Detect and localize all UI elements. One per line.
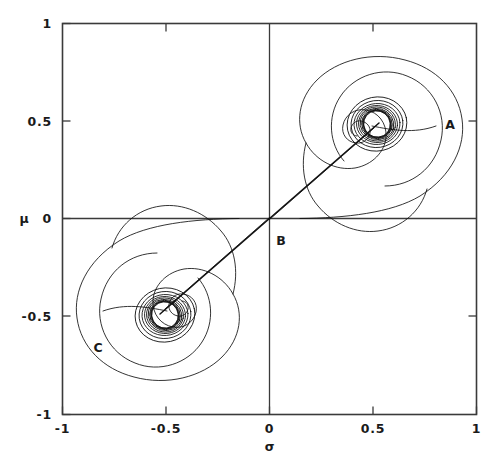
y-tick-label-0p5: 0.5 (27, 114, 52, 129)
y-axis-title: μ (19, 211, 28, 226)
fixed-point-label-b: B (276, 233, 286, 248)
y-tick-label-neg1: -1 (37, 407, 53, 422)
ray-through-a (372, 126, 436, 131)
y-tick-label-0: 0 (43, 211, 53, 226)
y-tick-label-1: 1 (43, 16, 53, 31)
phase-portrait-figure: 1 0.5 0 -0.5 -1 μ -1 -0.5 0 0.5 1 σ A B … (0, 0, 504, 474)
x-tick-label-neg1: -1 (55, 421, 71, 436)
ray-through-c (103, 306, 167, 311)
x-axis-ticks (63, 407, 477, 415)
x-tick-label-0: 0 (265, 421, 275, 436)
x-tick-label-neg0p5: -0.5 (151, 421, 182, 436)
spiral-loops-c (130, 282, 200, 347)
x-tick-label-0p5: 0.5 (361, 421, 386, 436)
phase-portrait-canvas: 1 0.5 0 -0.5 -1 μ -1 -0.5 0 0.5 1 σ A B … (0, 0, 504, 474)
outer-shell-c (100, 253, 211, 367)
x-axis-title: σ (265, 439, 275, 454)
fixed-point-label-a: A (445, 117, 455, 132)
y-axis-ticks (63, 24, 71, 415)
x-tick-label-1: 1 (472, 421, 482, 436)
heteroclinic-b-to-c-upper (165, 218, 270, 310)
y-tick-label-neg0p5: -0.5 (21, 309, 52, 324)
fixed-point-label-c: C (93, 340, 102, 355)
heteroclinic-b-to-a-lower (270, 128, 375, 220)
